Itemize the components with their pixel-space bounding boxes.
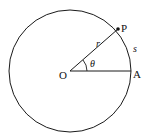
angle-arc xyxy=(83,60,87,71)
label-r: r xyxy=(96,38,100,49)
point-p-dot xyxy=(116,27,120,31)
label-o: O xyxy=(59,69,67,81)
label-theta: θ xyxy=(90,58,95,69)
circle-diagram: O A P r s θ xyxy=(0,0,150,140)
label-p: P xyxy=(121,22,127,34)
label-s: s xyxy=(133,43,137,54)
label-a: A xyxy=(133,68,141,80)
